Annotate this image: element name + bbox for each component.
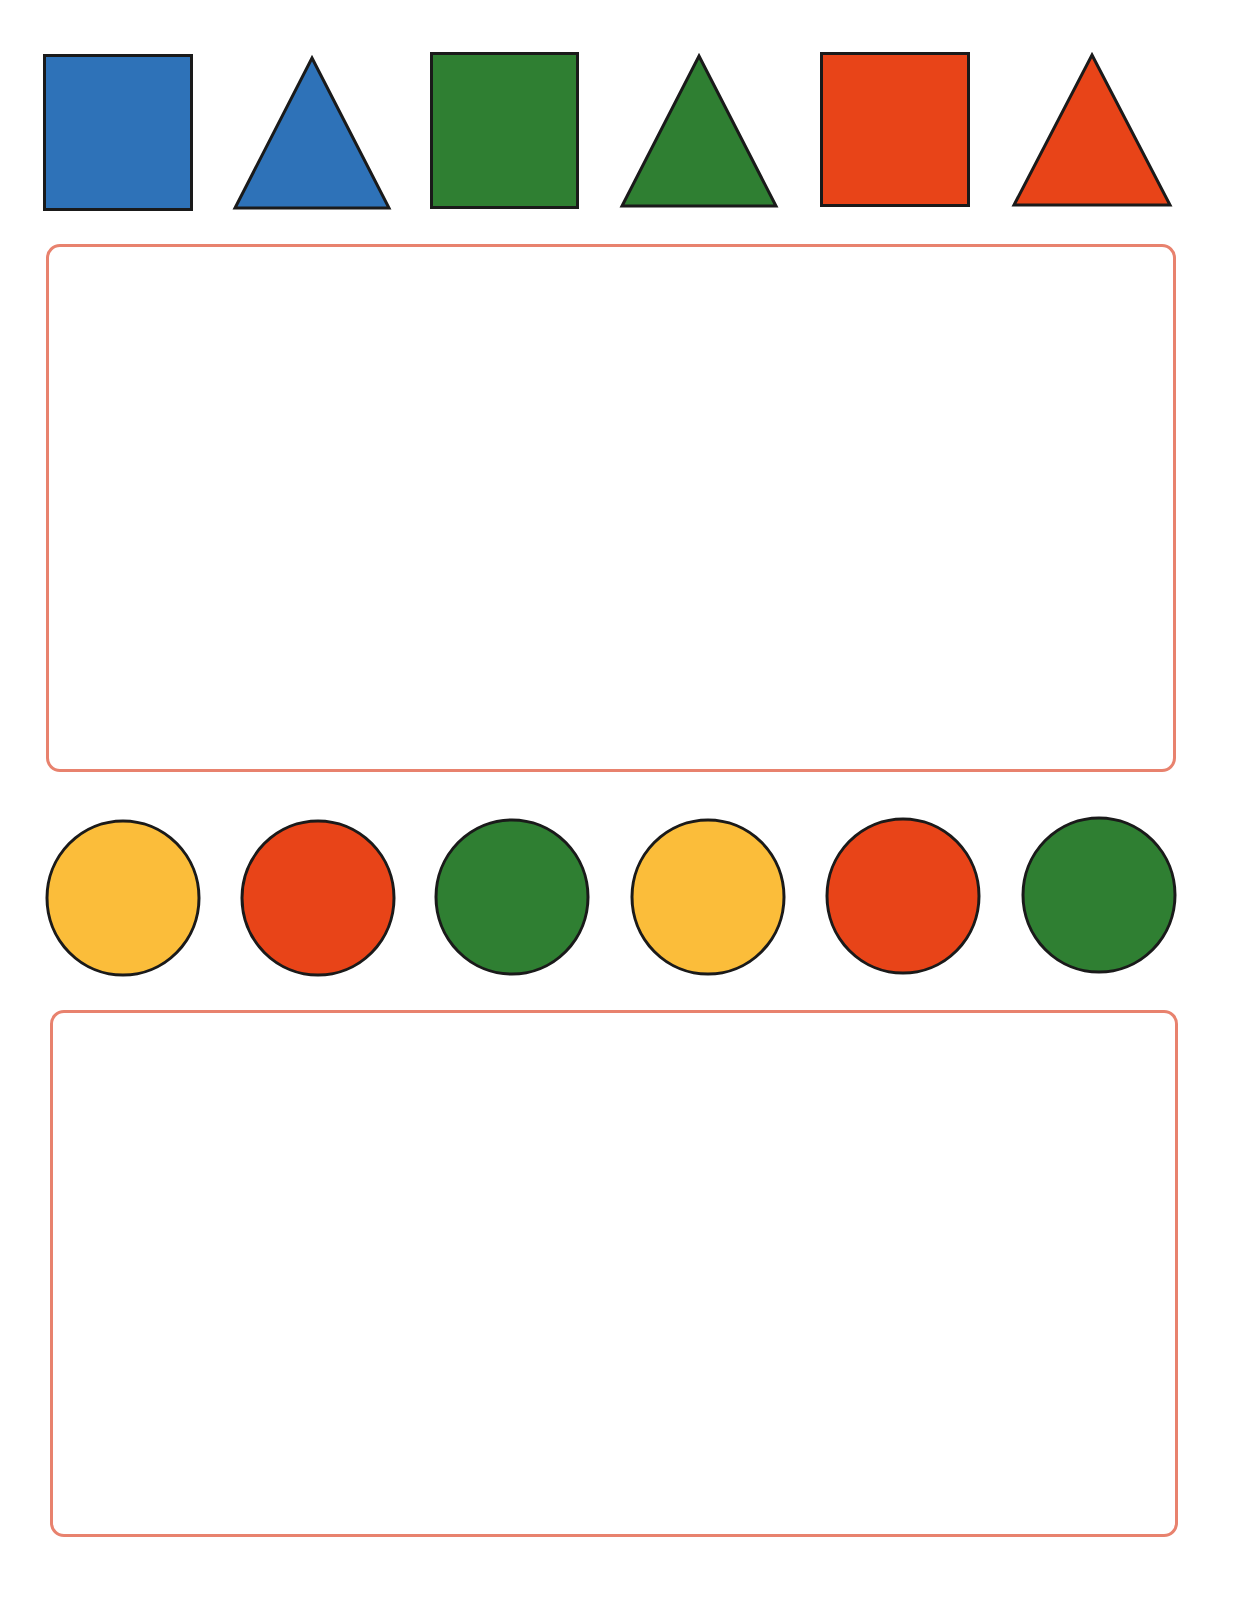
green-square-shape: [430, 52, 579, 209]
answer-box-2[interactable]: [50, 1010, 1178, 1537]
green-circle-shape: [434, 818, 590, 976]
red-square-shape: [820, 52, 970, 207]
blue-square-shape: [43, 54, 193, 211]
green-triangle-shape: [620, 54, 778, 208]
green-circle-shape: [1021, 816, 1177, 974]
blue-triangle-shape: [233, 56, 391, 210]
red-circle-shape: [240, 819, 396, 977]
answer-box-1[interactable]: [46, 244, 1176, 772]
yellow-circle-shape: [45, 819, 201, 977]
red-triangle-shape: [1012, 53, 1172, 207]
red-circle-shape: [825, 817, 981, 975]
yellow-circle-shape: [630, 818, 786, 976]
